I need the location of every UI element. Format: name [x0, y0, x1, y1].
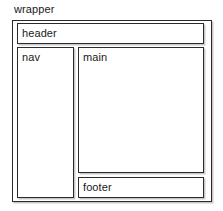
wrapper-box: header nav main footer — [12, 20, 212, 202]
nav-label: nav — [22, 50, 40, 64]
layout-diagram-canvas: wrapper header nav main footer — [0, 0, 223, 211]
nav-box: nav — [17, 47, 74, 198]
wrapper-label: wrapper — [14, 2, 54, 16]
footer-box: footer — [78, 177, 204, 198]
main-label: main — [83, 50, 107, 64]
footer-label: footer — [83, 180, 112, 194]
header-box: header — [17, 23, 204, 44]
header-label: header — [22, 26, 57, 40]
main-box: main — [78, 47, 204, 173]
